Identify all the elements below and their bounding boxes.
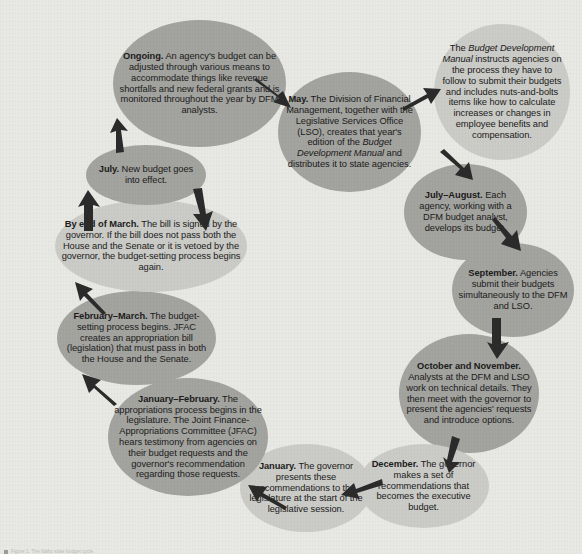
arrow-january-february-to-february-march (80, 372, 120, 406)
node-january-february[interactable]: January–February. The appropriations pro… (108, 378, 268, 496)
node-october-november-text: October and November. Analysts at the DF… (399, 361, 539, 426)
node-manual-text: The Budget Development Manual instructs … (434, 43, 570, 140)
node-september-heading: September. (468, 268, 518, 278)
arrow-july-to-ongoing (108, 118, 132, 154)
node-july-body: New budget goes into effect. (122, 164, 194, 185)
node-january-february-text: January–February. The appropriations pro… (108, 394, 268, 480)
node-july[interactable]: July. New budget goes into effect. (86, 145, 206, 205)
node-february-march-text: February–March. The budget-setting proce… (57, 311, 216, 365)
node-budget-development-manual[interactable]: The Budget Development Manual instructs … (434, 24, 570, 160)
node-manual-body-post: instructs agencies on the process they h… (443, 54, 562, 139)
node-manual-body-pre: The (450, 43, 468, 53)
node-october-november-heading: October and November. (417, 361, 521, 371)
node-july-august-heading: July–August. (425, 190, 483, 200)
node-december-heading: December. (372, 459, 419, 469)
arrow-by-end-of-march-to-july (76, 190, 102, 232)
node-ongoing-heading: Ongoing. (123, 51, 163, 61)
arrow-october-november-to-december (443, 436, 473, 474)
arrow-manual-to-july-august (440, 148, 476, 182)
arrow-december-to-january (338, 482, 384, 506)
node-september-text: September. Agencies submit their budgets… (452, 268, 574, 311)
arrow-september-to-october-november (487, 318, 513, 360)
figure-credit: Figure 1. The Idaho state budget cycle. (4, 549, 95, 554)
node-january-february-body: The appropriations process begins in the… (114, 394, 262, 479)
arrow-july-august-to-september (492, 215, 526, 253)
arrow-ongoing-to-may (253, 78, 293, 112)
node-july-heading: July. (99, 164, 119, 174)
node-october-november-body: Analysts at the DFM and LSO work on tech… (406, 372, 531, 425)
arrow-may-to-manual (400, 84, 442, 114)
credit-text: Figure 1. The Idaho state budget cycle. (11, 549, 95, 554)
arrow-by-end-of-march-loopback (190, 188, 216, 232)
diagram-canvas: Ongoing. An agency's budget can be adjus… (0, 0, 582, 554)
credit-marker-icon (4, 550, 8, 554)
node-january-february-heading: January–February. (138, 394, 220, 404)
node-july-text: July. New budget goes into effect. (86, 164, 206, 186)
arrow-january-to-january-february (245, 480, 289, 510)
arrow-february-march-to-by-end-of-march (73, 281, 109, 315)
node-september[interactable]: September. Agencies submit their budgets… (452, 243, 574, 337)
